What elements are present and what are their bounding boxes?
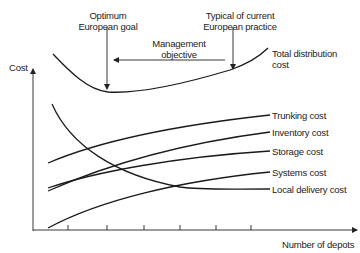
inventory-cost-label: Inventory cost [272,127,328,138]
storage-cost-label: Storage cost [272,146,323,157]
optimum-text-line2: European goal [76,21,140,32]
typical-text-line1: Typical of current [194,10,286,21]
total-distribution-cost-label: Total distribution cost [272,48,337,70]
trunking-cost-label: Trunking cost [272,110,326,121]
local-delivery-cost-label: Local delivery cost [272,184,346,195]
x-axis-label: Number of depots [282,239,354,250]
total-label-line1: Total distribution [272,48,337,59]
typical-text-line2: European practice [194,21,286,32]
systems-cost-label: Systems cost [272,167,326,178]
optimum-text-line1: Optimum [76,10,140,21]
systems-cost-curve [48,172,270,228]
management-text-line2: objective [142,49,216,60]
total-label-line2: cost [272,59,337,70]
trunking-cost-curve [48,115,270,163]
optimum-annotation: Optimum European goal [76,10,140,32]
typical-practice-annotation: Typical of current European practice [194,10,286,32]
y-axis-label: Cost [9,62,28,73]
x-axis [33,225,357,230]
management-text-line1: Management [142,38,216,49]
x-axis-ticks [68,225,251,230]
management-objective-annotation: Management objective [142,38,216,60]
cost-vs-depots-diagram: Optimum European goal Typical of current… [0,0,360,253]
